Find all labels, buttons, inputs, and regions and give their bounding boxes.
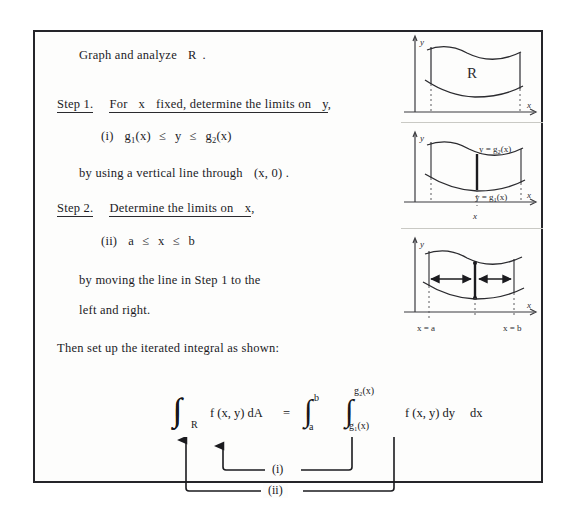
x-tick-label: x [472,211,477,221]
left-bound-label: x = a [417,323,435,333]
item-i-tag: (i) [101,129,114,143]
y-axis-label: y [419,37,424,47]
x-axis-label: x [526,190,531,200]
item-ii-b: b [189,234,196,248]
inner-integral-upper-limit: g₂(x) [354,385,374,396]
arrow-label-i: (i) [267,462,288,477]
upper-curve-label: y = g2(x) [479,144,511,155]
step2-comma: , [251,201,254,215]
y-axis-label: y [419,239,424,249]
item-i-y: y [175,129,182,143]
region-label-R: R [467,65,477,81]
arrow-bracket-svg [173,437,463,505]
leq-icon-3 [140,234,152,249]
vertical-line-note: by using a vertical line through(x, 0) . [79,166,289,181]
right-bound-label: x = b [503,323,522,333]
dx-differential: dx [470,406,483,421]
step1-statement: Forxfixed, determine the limits ony [109,97,327,113]
intro-line: Graph and analyzeR. [79,48,206,63]
intro-text: Graph and analyze [79,48,177,62]
outer-integral-upper-limit: b [314,392,319,403]
then-set-up-line: Then set up the iterated integral as sho… [57,341,279,356]
outer-integral-lower-limit: a [309,421,313,432]
item-ii-tag: (ii) [101,234,117,248]
arrow-bracket-diagram: (i) (ii) [173,437,463,505]
item-i-g2: g2(x) [205,129,231,143]
step1-label: Step 1. [57,97,93,113]
inner-integral-lower-limit: g₁(x) [349,420,369,431]
left-right-line: left and right. [79,303,150,318]
lower-curve-label: y = g1(x) [475,192,507,203]
step2-statement: Determine the limits onx [109,201,251,217]
lower-boundary-curve [425,174,525,191]
step1-comma: , [328,97,331,111]
equals-sign: = [283,406,290,421]
item-ii-line: (ii)axb [101,234,195,249]
intro-period: . [203,48,206,62]
integrand-right: f (x, y) dy [405,406,455,421]
page-frame: Graph and analyzeR. Step 1.Forxfixed, de… [33,30,543,483]
figure-region-R: y x R [401,34,541,122]
lower-boundary-curve [425,80,523,97]
integrand-left: f (x, y) dA [210,406,263,421]
step2-label: Step 2. [57,201,93,217]
y-axis-label: y [419,133,424,143]
figure-1-svg: y x R [401,34,541,122]
leq-icon-2 [187,129,199,144]
arrow-ii-path-right [303,437,394,491]
upper-boundary-curve [427,47,521,60]
figure-3-svg: y x x = a x = b [401,232,541,340]
figure-separator-2 [401,228,543,229]
arrow-label-ii: (ii) [263,483,288,498]
arrow-i-path-left [223,462,265,470]
step1-line: Step 1.Forxfixed, determine the limits o… [57,97,331,112]
x-axis-label: x [526,300,531,310]
double-integral-subscript-R: R [191,419,198,430]
figure-vertical-line-limits: y x y = g2(x) y = g1(x) x [401,124,541,224]
figure-separator-1 [401,122,543,123]
item-ii-a: a [128,234,134,248]
by-moving-line: by moving the line in Step 1 to the [79,273,261,288]
x-axis-label: x [526,100,531,110]
step2-line: Step 2.Determine the limits onx, [57,201,255,216]
sample-top-dot [473,261,477,265]
leq-icon-4 [171,234,183,249]
lower-boundary-curve [423,282,524,299]
item-i-g1: g1(x) [125,129,151,143]
item-i-line: (i)g1(x)yg2(x) [101,129,232,145]
intro-region: R [188,48,197,62]
figure-sweep-limits: y x x = a x = b [401,232,541,340]
figure-2-svg: y x y = g2(x) y = g1(x) x [401,124,541,224]
item-ii-x: x [158,234,165,248]
leq-icon-1 [157,129,169,144]
arrow-i-path-right [301,437,352,470]
